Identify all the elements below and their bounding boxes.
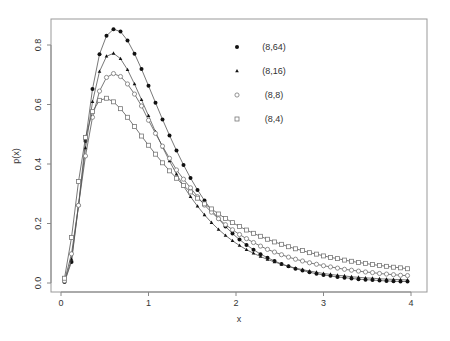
data-point xyxy=(153,131,157,135)
data-point xyxy=(287,245,291,249)
legend-item: (8,4) xyxy=(235,114,283,124)
legend-label: (8,16) xyxy=(262,66,286,76)
data-point xyxy=(84,136,88,140)
data-point xyxy=(328,265,332,269)
data-point xyxy=(238,238,242,242)
data-point xyxy=(329,255,333,259)
data-point xyxy=(175,172,179,175)
data-point xyxy=(105,34,109,38)
data-point xyxy=(237,232,241,236)
data-point xyxy=(363,270,367,274)
data-point xyxy=(230,228,234,232)
data-point xyxy=(182,163,186,167)
legend-label: (8,8) xyxy=(265,90,284,100)
data-point xyxy=(140,67,144,71)
data-point xyxy=(189,176,193,180)
data-point xyxy=(91,110,95,114)
data-point xyxy=(91,87,95,91)
density-plot: 01234 0.00.20.40.60.8 x p(x) (8,64)(8,16… xyxy=(0,0,450,341)
legend-item: (8,16) xyxy=(235,66,286,76)
data-point xyxy=(385,264,389,268)
data-point xyxy=(111,71,115,75)
data-point xyxy=(104,75,108,79)
data-point xyxy=(98,69,102,72)
data-point xyxy=(133,52,137,56)
data-point xyxy=(349,268,353,272)
data-point xyxy=(378,263,382,267)
data-point xyxy=(147,84,151,88)
data-point xyxy=(300,259,304,263)
data-point xyxy=(258,244,262,248)
legend-marker-icon xyxy=(235,93,239,97)
legend-item: (8,64) xyxy=(235,42,286,52)
data-point xyxy=(119,107,123,111)
data-point xyxy=(133,125,137,129)
legend-marker-icon xyxy=(235,45,239,49)
data-point xyxy=(280,242,284,246)
data-point xyxy=(83,154,87,158)
data-point xyxy=(272,250,276,254)
data-point xyxy=(321,264,325,268)
data-point xyxy=(189,190,193,194)
data-point xyxy=(147,114,151,117)
data-point xyxy=(133,82,137,85)
data-point xyxy=(97,89,101,93)
y-tick-label: 0.2 xyxy=(33,217,43,230)
data-point xyxy=(252,248,256,252)
data-point xyxy=(314,262,318,266)
data-point xyxy=(139,104,143,108)
data-point xyxy=(335,266,339,270)
x-axis: 01234 xyxy=(58,292,413,308)
data-point xyxy=(336,257,340,261)
x-tick-label: 1 xyxy=(146,298,151,308)
series-8-4 xyxy=(63,96,410,280)
y-tick-label: 0.4 xyxy=(33,158,43,171)
data-point xyxy=(168,133,172,137)
data-point xyxy=(238,224,242,228)
data-point xyxy=(181,177,185,181)
plot-frame xyxy=(51,19,427,292)
data-point xyxy=(244,237,248,241)
data-point xyxy=(140,98,144,101)
data-point xyxy=(322,254,326,258)
data-point xyxy=(357,260,361,264)
x-tick-label: 4 xyxy=(408,298,413,308)
data-point xyxy=(182,183,186,187)
data-point xyxy=(98,98,102,102)
data-point xyxy=(252,231,256,235)
data-point xyxy=(266,237,270,241)
data-point xyxy=(174,168,178,172)
data-point xyxy=(210,207,214,211)
data-point xyxy=(259,234,263,238)
data-point xyxy=(364,261,368,265)
data-point xyxy=(175,149,179,153)
data-point xyxy=(161,117,165,121)
data-point xyxy=(273,240,277,244)
data-point xyxy=(384,272,388,276)
data-point xyxy=(350,259,354,263)
data-point xyxy=(154,101,158,105)
data-point xyxy=(399,266,403,270)
x-tick-label: 3 xyxy=(321,298,326,308)
y-tick-label: 0.8 xyxy=(33,39,43,52)
data-point xyxy=(167,156,171,160)
data-point xyxy=(405,273,409,277)
data-point xyxy=(231,239,235,242)
data-point xyxy=(216,217,220,221)
data-point xyxy=(118,74,122,78)
data-point xyxy=(126,115,130,119)
y-axis-label: p(x) xyxy=(11,148,21,164)
data-point xyxy=(146,118,150,122)
chart-container: 01234 0.00.20.40.60.8 x p(x) (8,64)(8,16… xyxy=(0,0,450,341)
legend-marker-icon xyxy=(235,117,239,121)
data-point xyxy=(370,270,374,274)
y-axis: 0.00.20.40.60.8 xyxy=(33,39,51,290)
data-point xyxy=(279,253,283,257)
data-point xyxy=(112,27,116,31)
series-8-64 xyxy=(63,27,410,284)
data-point xyxy=(119,57,123,60)
data-point xyxy=(342,267,346,271)
data-point xyxy=(76,203,80,207)
data-point xyxy=(356,269,360,273)
data-point xyxy=(286,255,290,259)
